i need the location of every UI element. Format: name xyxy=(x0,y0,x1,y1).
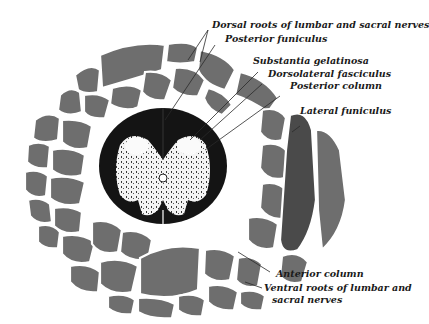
label-posterior-funiculus: Posterior funiculus xyxy=(225,33,327,44)
label-anterior-column: Anterior column xyxy=(276,268,364,279)
label-ventral-roots-line2: sacral nerves xyxy=(272,294,342,305)
spinal-cord xyxy=(93,102,233,230)
label-substantia-gelatinosa: Substantia gelatinosa xyxy=(253,55,369,66)
label-dorsolateral-fasciculus: Dorsolateral fasciculus xyxy=(268,68,391,79)
label-ventral-roots: Ventral roots of lumbar and xyxy=(264,282,412,293)
label-posterior-column: Posterior column xyxy=(290,80,382,91)
substantia-gelatinosa xyxy=(177,137,201,155)
label-lateral-funiculus: Lateral funiculus xyxy=(300,105,391,116)
label-dorsal-roots: Dorsal roots of lumbar and sacral nerves xyxy=(212,19,429,30)
central-canal xyxy=(159,174,167,182)
substantia-gelatinosa xyxy=(125,137,149,155)
